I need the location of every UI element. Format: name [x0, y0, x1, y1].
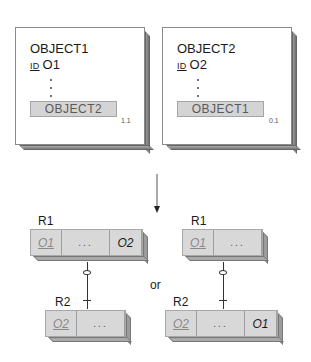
or-separator: or [150, 278, 161, 292]
object1-id-row: IDO1 [30, 57, 60, 72]
object1-box-side [145, 31, 150, 154]
relation-r1-label: R1 [191, 214, 206, 228]
object2-cardinality: 0.1 [269, 117, 279, 124]
object1-box: OBJECT1 IDO1 OBJECT2 1.1 [15, 27, 145, 145]
object2-box-side [292, 31, 297, 154]
r1-key-cell: O1 [183, 230, 214, 255]
object1-name: OBJECT1 [30, 41, 89, 56]
mandatory-tick-icon [219, 300, 227, 301]
object1-reference-attribute: OBJECT2 [30, 101, 117, 117]
r1-foreign-key-cell: O2 [110, 230, 142, 255]
ellipsis-dot [197, 79, 199, 81]
relation-r2-table: O2 ... [45, 310, 126, 337]
r1-ellipsis-cell: ... [214, 230, 262, 255]
object2-box: OBJECT2 IDO2 OBJECT1 0.1 [162, 27, 292, 145]
r1-table-bottom [185, 256, 269, 261]
object2-reference-attribute: OBJECT1 [177, 101, 264, 117]
r2-key-cell: O2 [166, 311, 197, 336]
ellipsis-dot [50, 79, 52, 81]
relation-r2-table: O2 ... O1 [165, 310, 278, 337]
object2-id-row: IDO2 [177, 57, 207, 72]
object2-name: OBJECT2 [177, 41, 236, 56]
mandatory-tick-icon [83, 300, 91, 301]
r2-key-cell: O2 [46, 311, 77, 336]
ellipsis-dot [50, 87, 52, 89]
arrow-down-icon [151, 174, 163, 218]
object1-id-value: O1 [43, 57, 60, 72]
relation-r2-label: R2 [173, 295, 188, 309]
relation-r2-label: R2 [55, 295, 70, 309]
optional-oval-icon [83, 270, 91, 275]
r2-table-bottom [48, 337, 132, 342]
r2-table-bottom [168, 337, 284, 342]
ellipsis-dot [197, 87, 199, 89]
r1-key-cell: O1 [31, 230, 62, 255]
relation-r1-label: R1 [38, 214, 53, 228]
r2-ellipsis-cell: ... [77, 311, 125, 336]
object2-id-value: O2 [190, 57, 207, 72]
r1-table-bottom [33, 256, 149, 261]
id-label: ID [177, 61, 187, 71]
r1-ellipsis-cell: ... [62, 230, 110, 255]
relation-r1-table: O1 ... [182, 229, 263, 256]
ellipsis-dot [197, 95, 199, 97]
r2-foreign-key-cell: O1 [245, 311, 277, 336]
id-label: ID [30, 61, 40, 71]
ellipsis-dot [50, 95, 52, 97]
optional-oval-icon [219, 270, 227, 275]
r2-ellipsis-cell: ... [197, 311, 245, 336]
object1-box-bottom [19, 145, 154, 150]
object1-cardinality: 1.1 [121, 117, 131, 124]
relation-r1-table: O1 ... O2 [30, 229, 143, 256]
object2-box-bottom [166, 145, 301, 150]
